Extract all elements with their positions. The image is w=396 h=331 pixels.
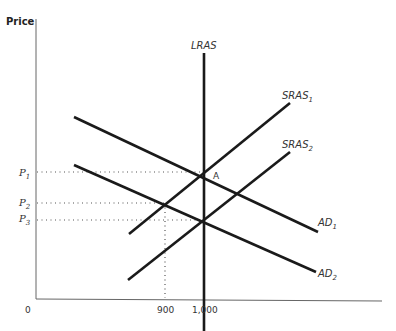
p1-label: P1 [18,167,30,181]
lras-label: LRAS [191,40,217,51]
sras2-label: SRAS2 [282,139,313,153]
ad2-label: AD2 [317,268,338,282]
p2-label: P2 [18,197,31,211]
point-a-label: A [213,171,220,181]
x-tick-1000: 1,000 [192,305,218,315]
p3-label: P3 [18,213,31,227]
x-tick-900: 900 [157,305,174,315]
x-axis [36,299,382,301]
dotted-guides [37,172,204,298]
sras1-label: SRAS1 [282,90,313,104]
ad1-curve [74,117,318,232]
origin-label: 0 [25,305,31,315]
y-axis-label: Price [6,16,35,27]
ad-as-diagram: Price LRAS SRAS1 SRAS2 AD1 AD2 A P1 P2 P… [0,0,396,331]
ad1-label: AD1 [317,217,337,231]
